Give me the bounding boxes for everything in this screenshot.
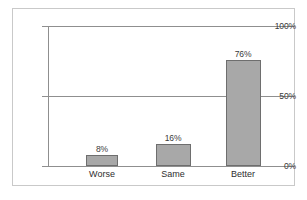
category-label-better: Better [213,169,273,180]
y-tick-label-100: 100% [268,22,296,31]
y-tick-label-50: 50% [268,92,296,101]
bar-worse[interactable] [86,155,118,166]
bar-value-worse: 8% [72,144,132,154]
figure: 100% 50% 0% 8% Worse 16% Same 76% Better [0,0,307,200]
category-label-worse: Worse [72,169,132,180]
gridline-0 [48,166,295,167]
bar-same[interactable] [156,144,191,166]
bar-value-better: 76% [213,49,273,59]
bar-value-same: 16% [143,133,203,143]
gridline-100 [48,26,295,27]
chart-frame: 100% 50% 0% 8% Worse 16% Same 76% Better [12,8,295,186]
y-axis-line [48,26,49,167]
bar-better[interactable] [226,60,261,166]
category-label-same: Same [143,169,203,180]
figure-caption [12,188,295,200]
plot-area: 100% 50% 0% 8% Worse 16% Same 76% Better [13,9,296,187]
